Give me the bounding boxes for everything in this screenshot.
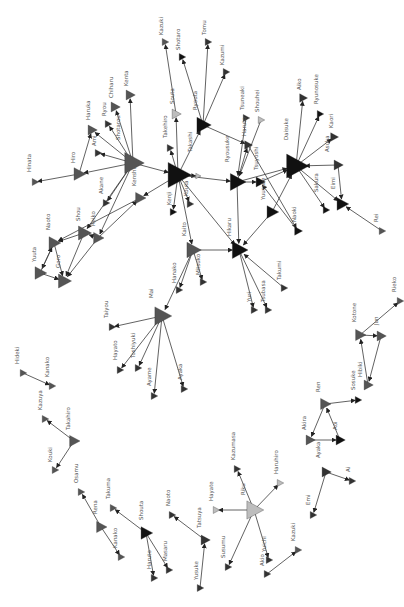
node-toshiyuki-triangle-icon[interactable] (135, 365, 142, 372)
node-kanako-triangle-icon[interactable] (49, 383, 56, 390)
node-rieko-triangle-icon[interactable] (397, 298, 404, 305)
edge-yusuke-to-tatsuya (200, 544, 205, 588)
node-label: Ren (315, 381, 321, 392)
node-takumi-triangle-icon[interactable] (281, 285, 288, 292)
edge-jun-to-hibiki (369, 336, 381, 381)
node-souta-triangle-icon[interactable] (172, 109, 181, 119)
node-label: Naoki (291, 206, 297, 222)
node-label: Eimi (330, 177, 336, 189)
node-susumu-triangle-icon[interactable] (225, 564, 232, 571)
node-eimi-triangle-icon[interactable] (337, 198, 349, 211)
node-ai-triangle-icon[interactable] (349, 478, 356, 485)
node-ryuunosuke-triangle-icon[interactable] (317, 111, 324, 118)
node-jun-triangle-icon[interactable] (377, 331, 386, 341)
node-shouhei-triangle-icon[interactable] (258, 117, 265, 124)
node-label: Yuichi (261, 536, 267, 553)
edge-ayaka2-to-emi (314, 472, 326, 512)
node-hanako-triangle-icon[interactable] (176, 287, 183, 294)
node-goro-triangle-icon[interactable] (59, 274, 72, 288)
node-label: Ryou (101, 102, 108, 116)
node-ryou-triangle-icon[interactable] (105, 121, 112, 128)
node-aiko-triangle-icon[interactable] (300, 94, 308, 102)
node-riku-triangle-icon[interactable] (247, 501, 264, 519)
node-label: Kaito (181, 221, 187, 236)
node-tomu-triangle-icon[interactable] (205, 39, 212, 46)
node-ayame-triangle-icon[interactable] (151, 393, 158, 400)
node-label: Shou (75, 207, 81, 221)
node-haruto-triangle-icon[interactable] (245, 141, 253, 149)
node-mitsuko-triangle-icon[interactable] (200, 279, 207, 286)
node-kenji-triangle-icon[interactable] (170, 209, 177, 216)
node-label: Shotarou (115, 115, 121, 140)
node-ren-triangle-icon[interactable] (321, 398, 331, 409)
node-emi-triangle-icon[interactable] (310, 512, 317, 519)
node-mai-triangle-icon[interactable] (155, 307, 172, 325)
node-rei-triangle-icon[interactable] (379, 228, 386, 235)
node-kaori-triangle-icon[interactable] (331, 133, 339, 141)
node-ryousuke-triangle-icon[interactable] (230, 174, 246, 191)
node-kazuki-triangle-icon[interactable] (162, 39, 169, 46)
node-kouki-triangle-icon[interactable] (52, 467, 59, 474)
node-ryouta-triangle-icon[interactable] (197, 117, 211, 132)
node-hideki-triangle-icon[interactable] (20, 370, 27, 377)
edge-hiro-to-haruka (79, 134, 91, 174)
node-daisuke-triangle-icon[interactable] (287, 154, 309, 178)
node-kenta-triangle-icon[interactable] (126, 90, 135, 100)
node-yuuta-triangle-icon[interactable] (35, 267, 47, 280)
node-haruto2-triangle-icon[interactable] (151, 575, 158, 582)
node-shotarou-triangle-icon[interactable] (179, 54, 186, 61)
node-label: Emi (305, 494, 311, 505)
node-rena-triangle-icon[interactable] (97, 521, 107, 532)
node-haruhito-triangle-icon[interactable] (277, 480, 284, 487)
node-label: Kazumi (219, 44, 225, 65)
node-label: Jun (373, 316, 380, 326)
node-akira-triangle-icon[interactable] (306, 435, 315, 445)
node-shou-triangle-icon[interactable] (79, 226, 92, 240)
node-naoki-triangle-icon[interactable] (295, 227, 303, 235)
node-ayaka-triangle-icon[interactable] (181, 386, 188, 393)
node-hayato-triangle-icon[interactable] (117, 367, 124, 374)
node-sosuke-triangle-icon[interactable] (355, 397, 362, 404)
node-label: Kazumasa (230, 432, 236, 460)
node-tsubasa-triangle-icon[interactable] (265, 307, 272, 314)
edges-layer (23, 45, 398, 588)
node-label: Tsuneaki (239, 86, 245, 111)
node-label: Asuka (324, 135, 330, 152)
node-sakura-triangle-icon[interactable] (323, 207, 330, 214)
node-takehiro-triangle-icon[interactable] (167, 145, 174, 152)
node-yuri-triangle-icon[interactable] (251, 307, 258, 314)
node-chiharu-triangle-icon[interactable] (111, 102, 120, 112)
edge-takeshi-to-kenta (130, 99, 133, 163)
node-kouta-triangle-icon[interactable] (187, 201, 194, 208)
node-kazuki2-triangle-icon[interactable] (295, 547, 302, 554)
edge-daisuke-to-ryuunosuke (296, 116, 319, 166)
node-tomoya-triangle-icon[interactable] (336, 435, 345, 445)
node-label: Sakura (313, 173, 319, 192)
node-osamu-triangle-icon[interactable] (78, 489, 85, 496)
edge-mai-to-ayame (154, 316, 162, 393)
node-hayate-triangle-icon[interactable] (213, 507, 220, 514)
node-hinata-triangle-icon[interactable] (32, 179, 39, 186)
node-ayaka2-triangle-icon[interactable] (322, 467, 331, 477)
node-kanako2-triangle-icon[interactable] (118, 554, 125, 561)
node-takahiro-triangle-icon[interactable] (70, 435, 80, 446)
node-taiyou-triangle-icon[interactable] (109, 324, 116, 331)
node-label: Osamu (73, 464, 79, 483)
node-label: Haruhiro (273, 450, 279, 474)
node-label: Hayato (112, 340, 119, 360)
node-tatsuya-triangle-icon[interactable] (201, 535, 210, 545)
node-yuichi-triangle-icon[interactable] (266, 557, 273, 564)
node-hibiki-triangle-icon[interactable] (364, 380, 373, 390)
node-label: Riku (240, 483, 246, 495)
node-label: Naoto (165, 489, 171, 506)
node-kenshin-triangle-icon[interactable] (136, 192, 146, 203)
node-kazumi-triangle-icon[interactable] (223, 69, 230, 76)
node-label: Souta (169, 88, 175, 104)
node-label: Tsubasa (260, 280, 266, 303)
node-yuusuke-triangle-icon[interactable] (267, 206, 279, 219)
node-ami-triangle-icon[interactable] (95, 150, 102, 157)
node-kazumasa-triangle-icon[interactable] (234, 466, 241, 473)
node-masaru-triangle-icon[interactable] (166, 567, 173, 574)
node-label: Susumu (220, 536, 226, 558)
node-label: Ayaka (315, 442, 322, 458)
